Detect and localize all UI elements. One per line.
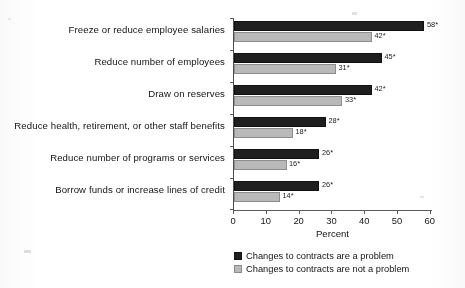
category-axis-labels: Freeze or reduce employee salaries Reduc… xyxy=(0,18,230,210)
x-axis-tick xyxy=(266,210,267,214)
bar-not-problem[interactable] xyxy=(234,192,280,202)
bar-value-label: 16* xyxy=(289,160,300,168)
bar-value-label: 28* xyxy=(329,117,340,125)
bar-not-problem[interactable] xyxy=(234,96,342,106)
y-axis-tick xyxy=(230,18,233,19)
category-label-0: Freeze or reduce employee salaries xyxy=(0,24,225,35)
bar-not-problem[interactable] xyxy=(234,128,293,138)
category-label-3: Reduce health, retirement, or other staf… xyxy=(0,120,225,131)
bar-value-label: 26* xyxy=(322,149,333,157)
legend-label: Changes to contracts are a problem xyxy=(246,251,394,261)
bar-value-label: 42* xyxy=(375,85,386,93)
x-axis-tick xyxy=(397,210,398,214)
x-axis-line xyxy=(233,210,432,211)
scan-speck xyxy=(352,12,357,15)
x-axis-tick xyxy=(430,210,431,214)
bar-problem[interactable] xyxy=(234,53,382,63)
chart-legend: Changes to contracts are a problem Chang… xyxy=(234,250,464,276)
y-axis-tick xyxy=(230,178,233,179)
x-axis-tick-label: 50 xyxy=(392,215,402,226)
dark-square-icon xyxy=(234,252,242,260)
y-axis-tick xyxy=(230,114,233,115)
bar-problem[interactable] xyxy=(234,149,319,159)
x-axis-tick xyxy=(299,210,300,214)
y-axis-tick xyxy=(230,82,233,83)
bar-value-label: 45* xyxy=(385,53,396,61)
x-axis-tick-label: 20 xyxy=(293,215,303,226)
legend-item-not-problem[interactable]: Changes to contracts are not a problem xyxy=(234,263,464,275)
y-axis-tick xyxy=(230,146,233,147)
legend-item-problem[interactable]: Changes to contracts are a problem xyxy=(234,250,464,262)
bar-not-problem[interactable] xyxy=(234,32,372,42)
category-label-2: Draw on reserves xyxy=(0,88,225,99)
x-axis-tick-label: 60 xyxy=(425,215,435,226)
bar-value-label: 58* xyxy=(427,21,438,29)
x-axis-tick-label: 10 xyxy=(261,215,271,226)
bar-value-label: 14* xyxy=(283,192,294,200)
category-label-1: Reduce number of employees xyxy=(0,56,225,67)
y-axis-tick xyxy=(230,50,233,51)
x-axis-tick xyxy=(331,210,332,214)
light-square-icon xyxy=(234,265,242,273)
x-axis-tick xyxy=(233,210,234,214)
bar-value-label: 26* xyxy=(322,181,333,189)
bar-value-label: 31* xyxy=(339,64,350,72)
x-axis-tick-label: 0 xyxy=(230,215,235,226)
bar-problem[interactable] xyxy=(234,117,326,127)
legend-label: Changes to contracts are not a problem xyxy=(246,264,409,274)
scan-speck xyxy=(24,250,31,253)
x-axis-tick xyxy=(364,210,365,214)
x-axis-tick-label: 30 xyxy=(326,215,336,226)
bar-problem[interactable] xyxy=(234,21,424,31)
bar-problem[interactable] xyxy=(234,85,372,95)
category-label-4: Reduce number of programs or services xyxy=(0,152,225,163)
bar-problem[interactable] xyxy=(234,181,319,191)
bar-not-problem[interactable] xyxy=(234,64,336,74)
x-axis-title: Percent xyxy=(233,228,432,239)
x-axis-tick-label: 40 xyxy=(359,215,369,226)
plot-area: 58* 42* 45* 31* 42* 33* 28* 18* xyxy=(233,18,465,210)
bar-not-problem[interactable] xyxy=(234,160,287,170)
bar-chart: Freeze or reduce employee salaries Reduc… xyxy=(0,0,465,288)
category-label-5: Borrow funds or increase lines of credit xyxy=(0,184,225,195)
bar-value-label: 18* xyxy=(296,128,307,136)
bar-value-label: 42* xyxy=(375,32,386,40)
bar-value-label: 33* xyxy=(345,96,356,104)
